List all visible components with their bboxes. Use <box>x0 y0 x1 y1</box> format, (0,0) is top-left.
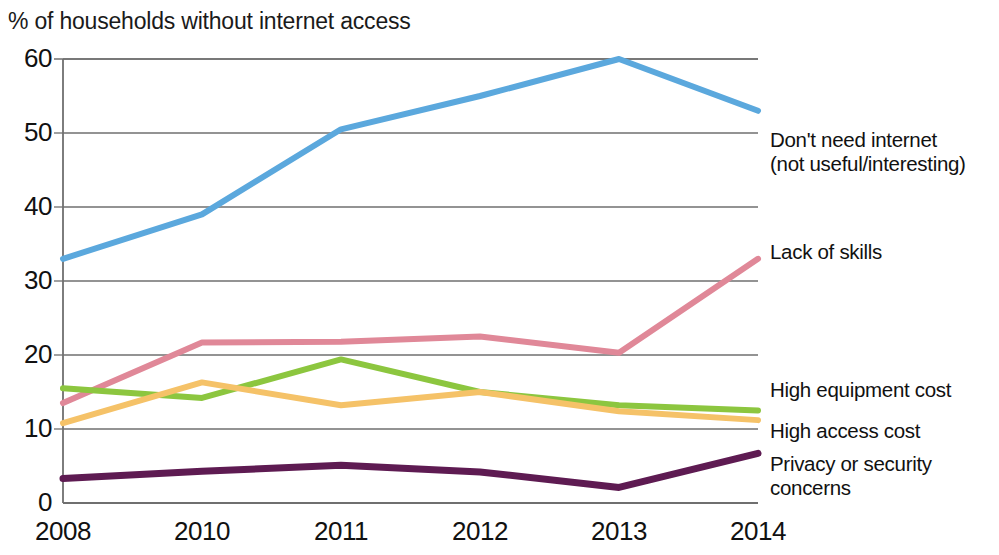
x-axis-tick-2008: 2008 <box>8 517 118 545</box>
series-label-lack-of-skills: Lack of skills <box>770 240 882 264</box>
series-line-2 <box>63 359 758 410</box>
y-axis-tick-10: 10 <box>0 415 52 441</box>
x-axis-tick-2014: 2014 <box>703 517 813 545</box>
series-label-high-access-cost: High access cost <box>770 419 920 443</box>
x-axis-tick-2012: 2012 <box>425 517 535 545</box>
chart-container: % of households without internet access … <box>0 0 999 555</box>
x-axis-tick-2010: 2010 <box>147 517 257 545</box>
series-label-dont-need-internet: Don't need internet (not useful/interest… <box>770 128 966 176</box>
y-axis-tick-40: 40 <box>0 193 52 219</box>
series-label-privacy-or-security-concerns: Privacy or security concerns <box>770 452 932 500</box>
y-axis-tick-20: 20 <box>0 341 52 367</box>
series-label-high-equipment-cost: High equipment cost <box>770 378 951 402</box>
x-axis-tick-2011: 2011 <box>286 517 396 545</box>
y-axis-tick-60: 60 <box>0 45 52 71</box>
series-line-0 <box>63 59 758 259</box>
y-axis-tick-50: 50 <box>0 119 52 145</box>
series-line-4 <box>63 453 758 487</box>
x-axis-tick-2013: 2013 <box>564 517 674 545</box>
y-axis-tick-0: 0 <box>0 489 52 515</box>
y-axis-tick-30: 30 <box>0 267 52 293</box>
series-line-3 <box>63 382 758 423</box>
